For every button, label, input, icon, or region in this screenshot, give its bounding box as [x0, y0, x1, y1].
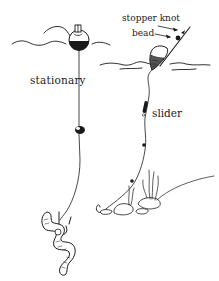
- slider-float-icon: [150, 46, 168, 70]
- stationary-water-surface: [12, 26, 110, 45]
- lake-bottom-rocks: [100, 176, 214, 215]
- bead-label: bead: [132, 29, 154, 38]
- split-shot-icon: [130, 143, 146, 183]
- diagram-artwork: [0, 0, 219, 281]
- split-shot-sinker-icon: [75, 126, 85, 134]
- stopper-knot-arrow: [158, 26, 178, 32]
- slider-label: slider: [152, 108, 182, 119]
- stationary-label: stationary: [30, 75, 86, 86]
- slider-swivel-icon: [142, 101, 148, 116]
- bead-icon: [176, 36, 181, 41]
- fishing-rig-diagram: stationary slider stopper knot bead: [0, 0, 219, 281]
- stopper-knot-label: stopper knot: [122, 14, 180, 23]
- bead-arrow: [155, 34, 171, 39]
- stationary-float-icon: [69, 25, 89, 51]
